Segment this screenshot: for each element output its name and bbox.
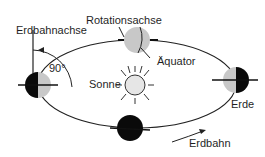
label-orbit-axis: Erdbahnachse xyxy=(16,25,87,36)
label-sun: Sonne xyxy=(89,79,121,90)
label-equator: Äquator xyxy=(157,56,196,67)
label-earth: Erde xyxy=(231,99,254,110)
label-orbit: Erdbahn xyxy=(189,138,231,149)
label-rotation-axis: Rotationsachse xyxy=(86,15,162,26)
earth-top-icon xyxy=(118,27,158,58)
sun-icon xyxy=(116,66,154,104)
earth-right-icon xyxy=(212,67,258,93)
earth-orbit-diagram: Erdbahnachse Rotationsachse Äquator Sonn… xyxy=(0,0,265,157)
label-angle: 90° xyxy=(49,63,66,74)
